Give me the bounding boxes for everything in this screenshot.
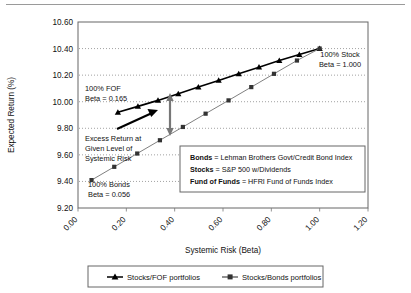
- y-tick-label: 9.20: [57, 204, 73, 213]
- x-axis-title: Systemic Risk (Beta): [185, 246, 261, 255]
- annotation-excess-line2: Given Level of: [85, 144, 133, 153]
- x-axis-tick-marks: [78, 208, 368, 212]
- square-marker-icon: [135, 151, 139, 155]
- annotation-bonds: 100% Bonds Beta = 0.056: [88, 180, 130, 199]
- definition-row: Bonds = Lehman Brothers Govt/Credit Bond…: [190, 153, 353, 162]
- annotation-fof-line2: Beta = 0.165: [85, 94, 127, 103]
- legend-label-stocks-fof: Stocks/FOF portfolios: [127, 273, 200, 282]
- x-tick-label: 0.80: [255, 215, 273, 233]
- x-tick-label: 0.40: [158, 215, 176, 233]
- x-tick-label: 1.00: [303, 215, 321, 233]
- x-tick-label: 1.20: [352, 215, 370, 233]
- square-marker-icon: [181, 125, 185, 129]
- square-marker-icon: [204, 112, 208, 116]
- x-axis-tick-labels: 0.000.200.400.600.801.001.20: [62, 215, 370, 233]
- square-marker-icon: [295, 58, 299, 62]
- y-axis-tick-labels: 10.6010.4010.2010.009.809.609.409.20: [53, 18, 74, 213]
- definition-row: Stocks = S&P 500 w/Dividends: [190, 165, 291, 174]
- y-tick-label: 10.00: [53, 98, 74, 107]
- annotation-bonds-line1: 100% Bonds: [88, 180, 130, 189]
- annotation-excess-line3: Systemic Risk: [85, 154, 132, 163]
- annotation-stock: 100% Stock Beta = 1.000: [319, 50, 361, 69]
- y-axis-title: Expected Return (%): [7, 77, 16, 153]
- square-marker-icon: [272, 72, 276, 76]
- annotation-bonds-line2: Beta = 0.056: [88, 190, 130, 199]
- x-tick-label: 0.00: [62, 215, 80, 233]
- square-marker-icon: [158, 138, 162, 142]
- annotation-excess-line1: Excess Return at: [85, 134, 141, 143]
- y-tick-label: 9.40: [57, 177, 73, 186]
- y-tick-label: 10.40: [53, 45, 74, 54]
- square-marker-icon: [249, 85, 253, 89]
- annotation-stock-line2: Beta = 1.000: [319, 60, 361, 69]
- square-marker-icon: [228, 274, 233, 279]
- chart-figure: 10.6010.4010.2010.009.809.609.409.20 0.0…: [0, 0, 411, 293]
- annotation-fof-line1: 100% FOF: [85, 84, 121, 93]
- definition-row: Fund of Funds = HFRI Fund of Funds Index: [190, 177, 333, 186]
- chart-legend: Stocks/FOF portfolios Stocks/Bonds portf…: [88, 266, 323, 287]
- y-tick-label: 9.60: [57, 151, 73, 160]
- y-tick-label: 10.60: [53, 18, 74, 27]
- x-tick-label: 0.20: [110, 215, 128, 233]
- square-marker-icon: [112, 165, 116, 169]
- definitions-box: Bonds = Lehman Brothers Govt/Credit Bond…: [180, 146, 365, 192]
- square-marker-icon: [226, 98, 230, 102]
- legend-label-stocks-bonds: Stocks/Bonds portfolios: [242, 273, 322, 282]
- annotation-stock-line1: 100% Stock: [320, 50, 360, 59]
- x-tick-label: 0.60: [207, 215, 225, 233]
- y-tick-label: 9.80: [57, 124, 73, 133]
- y-tick-label: 10.20: [53, 71, 74, 80]
